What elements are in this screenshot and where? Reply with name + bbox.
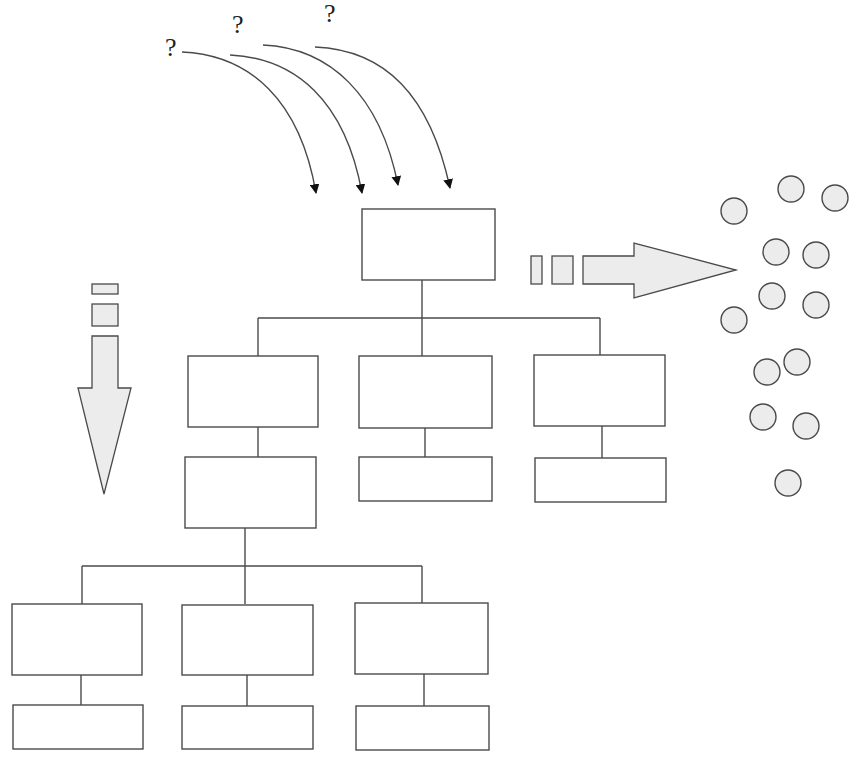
incoming-arrows: [182, 45, 450, 193]
box-l2-a-sub: [185, 457, 316, 528]
curved-arrow: [263, 45, 398, 185]
box-l2-b: [359, 356, 492, 428]
arrow-dash-segment: [92, 304, 118, 326]
box-l3-d-sub: [13, 705, 143, 749]
hierarchy-diagram: [0, 0, 856, 769]
scattered-circles: [721, 176, 848, 496]
arrow-dash-segment: [531, 256, 542, 284]
circle-node: [784, 349, 810, 375]
circle-node: [778, 176, 804, 202]
box-l3-e-sub: [182, 706, 313, 749]
right-output-arrow: [531, 243, 736, 298]
down-arrow-icon: [78, 336, 131, 494]
box-l3-e: [182, 605, 313, 675]
circle-node: [754, 359, 780, 385]
circle-node: [759, 283, 785, 309]
curved-arrow: [182, 52, 316, 193]
box-l3-f: [355, 603, 488, 674]
box-l3-d: [12, 604, 142, 675]
box-l3-f-sub: [356, 706, 489, 750]
circle-node: [721, 198, 747, 224]
circle-node: [803, 292, 829, 318]
box-l2-b-sub: [359, 457, 492, 501]
circle-node: [763, 239, 789, 265]
circle-node: [803, 242, 829, 268]
down-arrow: [78, 284, 131, 494]
box-root: [362, 209, 495, 280]
circle-node: [793, 413, 819, 439]
circle-node: [721, 307, 747, 333]
connector-lines: [81, 280, 602, 706]
circle-node: [822, 185, 848, 211]
box-l2-c-sub: [535, 458, 666, 502]
circle-node: [775, 470, 801, 496]
box-l2-a: [188, 356, 318, 427]
arrow-dash-segment: [92, 284, 118, 294]
box-l2-c: [534, 355, 665, 426]
circle-node: [750, 404, 776, 430]
arrow-dash-segment: [552, 256, 573, 284]
right-arrow-icon: [583, 243, 736, 298]
